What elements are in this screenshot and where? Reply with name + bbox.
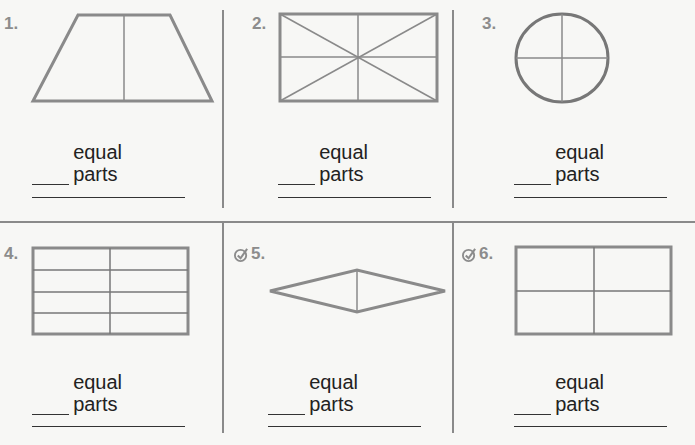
answer-blank[interactable]	[514, 396, 551, 415]
fraction-name-line[interactable]	[32, 197, 185, 198]
fraction-name-line[interactable]	[32, 426, 185, 427]
column-divider-4	[452, 223, 454, 433]
circle-shape	[514, 12, 610, 104]
fraction-name-line[interactable]	[514, 426, 667, 427]
answer-line: equal parts	[32, 141, 140, 185]
column-divider-1	[222, 10, 224, 208]
rectangle-shape	[278, 12, 439, 103]
problem-number: 1.	[4, 14, 18, 34]
check-circle-icon	[234, 247, 249, 262]
worksheet-page: 1. equal parts 2. equal parts	[0, 0, 695, 445]
problem-number: 4.	[4, 244, 18, 264]
answer-line: equal parts	[268, 371, 376, 415]
answer-line: equal parts	[514, 371, 622, 415]
answer-line: equal parts	[278, 141, 386, 185]
answer-blank[interactable]	[268, 396, 305, 415]
fraction-name-line[interactable]	[278, 197, 431, 198]
rectangle-shape	[31, 246, 190, 336]
rectangle-shape	[514, 245, 673, 336]
answer-blank[interactable]	[32, 396, 69, 415]
problem-number: 6.	[462, 244, 493, 264]
row-divider	[0, 221, 695, 223]
trapezoid-shape	[30, 12, 215, 104]
column-divider-2	[452, 10, 454, 208]
problem-number: 2.	[252, 14, 266, 34]
fraction-name-line[interactable]	[268, 426, 421, 427]
column-divider-3	[222, 223, 224, 433]
problem-number: 5.	[234, 244, 265, 264]
answer-blank[interactable]	[278, 166, 315, 185]
answer-blank[interactable]	[32, 166, 69, 185]
problem-number: 3.	[482, 14, 496, 34]
answer-blank[interactable]	[514, 166, 551, 185]
answer-line: equal parts	[32, 371, 140, 415]
answer-line: equal parts	[514, 141, 622, 185]
check-circle-icon	[462, 247, 477, 262]
fraction-name-line[interactable]	[514, 197, 667, 198]
rhombus-shape	[267, 267, 448, 315]
